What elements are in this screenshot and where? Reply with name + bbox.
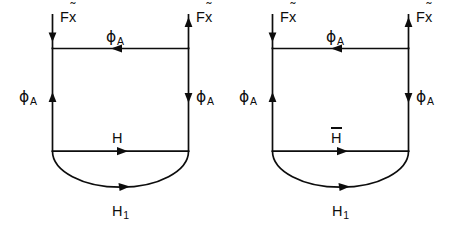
phi-glyph: ϕ: [19, 88, 29, 106]
left-diagram-middle-flow-label: H: [112, 131, 123, 146]
right-diagram-output-label: F˜x: [416, 10, 433, 25]
phi-glyph: ϕ: [106, 28, 116, 46]
tilde-icon: ˜: [290, 1, 295, 14]
right-diagram-right-flow-label: ϕA: [416, 89, 434, 106]
left-arc-H: H: [112, 203, 123, 219]
right-middle-H: H: [331, 130, 342, 146]
right-diagram-right-arrowhead-down: [405, 93, 413, 103]
right-arc-H: H: [332, 203, 343, 219]
right-middle-H-overbar: H: [331, 131, 342, 146]
phi-glyph: ϕ: [326, 28, 336, 46]
right-diagram-top-flow-label: ϕA: [326, 29, 344, 46]
figure-root: F˜x F˜x ϕA ϕA ϕA H H1 F˜x F˜x ϕA ϕA ϕA H…: [0, 0, 461, 235]
tilde-icon: ˜: [206, 1, 211, 14]
left-arc-subscript: 1: [123, 209, 129, 221]
left-output-F: F: [196, 9, 205, 25]
left-input-F: F: [60, 9, 69, 25]
phi-subscript: A: [427, 95, 434, 107]
left-diagram-middle-arrowhead-right: [117, 147, 128, 155]
left-diagram-bottom-arc: [53, 151, 189, 187]
phi-glyph: ϕ: [239, 88, 249, 106]
right-input-F: F: [280, 9, 289, 25]
right-diagram-output-arrowhead-up: [405, 17, 413, 27]
phi-subscript: A: [117, 35, 124, 47]
left-diagram-top-flow-label: ϕA: [106, 29, 124, 46]
right-diagram-left-arrowhead-up: [269, 92, 277, 102]
right-diagram-input-label: F˜x: [280, 10, 297, 25]
left-diagram-output-arrowhead-up: [185, 17, 193, 27]
right-output-x-tilde: ˜x: [425, 10, 432, 25]
left-diagram-input-arrowhead-down: [49, 33, 57, 43]
phi-subscript: A: [250, 95, 257, 107]
right-diagram-left-flow-label: ϕA: [239, 89, 257, 106]
right-diagram-bottom-arc: [273, 151, 409, 187]
right-diagram-middle-arrowhead-right: [337, 147, 348, 155]
left-output-x-tilde: ˜x: [205, 10, 212, 25]
left-diagram-arc-flow-label: H1: [112, 204, 129, 219]
left-diagram-input-label: F˜x: [60, 10, 77, 25]
diagram-canvas: [0, 0, 461, 235]
tilde-icon: ˜: [70, 1, 75, 14]
right-diagram-input-arrowhead-down: [269, 33, 277, 43]
phi-subscript: A: [337, 35, 344, 47]
right-diagram-arc-flow-label: H1: [332, 204, 349, 219]
left-diagram-arc-arrowhead-right: [119, 183, 131, 191]
right-output-F: F: [416, 9, 425, 25]
left-middle-H: H: [112, 130, 123, 146]
right-arc-subscript: 1: [343, 209, 349, 221]
left-diagram-right-arrowhead-down: [185, 93, 193, 103]
right-diagram-middle-flow-label: H: [331, 131, 342, 146]
right-input-x-tilde: ˜x: [289, 10, 296, 25]
phi-subscript: A: [30, 95, 37, 107]
left-diagram-left-arrowhead-up: [49, 92, 57, 102]
tilde-icon: ˜: [426, 1, 431, 14]
left-input-x-tilde: ˜x: [69, 10, 76, 25]
phi-glyph: ϕ: [416, 88, 426, 106]
left-diagram-output-label: F˜x: [196, 10, 213, 25]
phi-glyph: ϕ: [196, 88, 206, 106]
phi-subscript: A: [207, 95, 214, 107]
right-diagram-arc-arrowhead-right: [339, 183, 351, 191]
overbar-icon: [331, 127, 343, 129]
left-diagram-right-flow-label: ϕA: [196, 89, 214, 106]
left-diagram-left-flow-label: ϕA: [19, 89, 37, 106]
